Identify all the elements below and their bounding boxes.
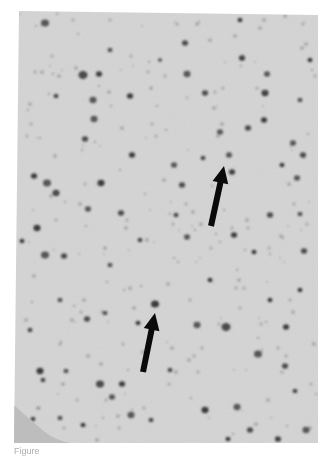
speckle	[70, 318, 74, 322]
speckle	[194, 229, 196, 231]
speckle	[145, 238, 149, 242]
speckle	[244, 249, 246, 251]
speckle	[56, 13, 58, 15]
speckle	[220, 317, 222, 319]
speckle	[237, 278, 241, 282]
cell-nucleus	[58, 416, 63, 421]
speckle	[224, 61, 226, 63]
speckle	[19, 13, 21, 15]
speckle	[212, 281, 214, 283]
cell-nucleus	[96, 380, 104, 387]
speckle	[260, 323, 263, 326]
speckle	[310, 383, 313, 386]
speckle	[141, 25, 143, 27]
speckle	[26, 135, 29, 138]
speckle	[185, 203, 188, 206]
cell-nucleus	[149, 418, 154, 423]
cell-nucleus	[90, 97, 97, 103]
speckle	[101, 311, 104, 314]
speckle	[86, 425, 88, 427]
cell-nucleus	[254, 350, 262, 357]
speckle	[52, 73, 54, 75]
speckle	[269, 253, 271, 255]
speckle	[78, 202, 82, 206]
speckle	[315, 393, 317, 395]
cell-nucleus	[202, 407, 209, 413]
cell-nucleus	[79, 71, 88, 79]
speckle	[277, 347, 280, 350]
speckle	[124, 226, 128, 230]
speckle	[258, 26, 262, 30]
cell-nucleus	[298, 288, 303, 293]
speckle	[241, 54, 245, 58]
speckle	[191, 225, 193, 227]
speckle	[76, 399, 79, 402]
speckle	[165, 129, 167, 131]
speckle	[107, 90, 111, 94]
figure-caption: Figure	[14, 446, 40, 456]
speckle	[119, 169, 121, 171]
cell-nucleus	[264, 71, 270, 76]
speckle	[258, 317, 260, 319]
speckle	[215, 233, 217, 235]
speckle	[220, 122, 224, 126]
cell-nucleus	[20, 239, 25, 244]
cell-nucleus	[268, 298, 273, 303]
cell-nucleus	[308, 58, 313, 63]
cell-nucleus	[298, 98, 303, 103]
cell-nucleus	[136, 321, 141, 326]
speckle	[187, 149, 189, 151]
speckle	[232, 433, 234, 435]
cell-nucleus	[294, 175, 300, 180]
speckle	[170, 346, 174, 350]
cell-nucleus	[293, 389, 298, 394]
speckle	[312, 341, 314, 343]
speckle	[306, 223, 309, 226]
speckle	[98, 85, 100, 87]
cell-nucleus	[128, 412, 135, 418]
speckle	[208, 38, 212, 42]
speckle	[51, 55, 54, 58]
photo	[10, 10, 320, 446]
speckle	[189, 299, 192, 302]
speckle	[57, 74, 61, 78]
cell-nucleus	[82, 136, 88, 141]
speckle	[268, 247, 271, 250]
speckle	[64, 201, 66, 203]
speckle	[261, 349, 263, 351]
cell-nucleus	[298, 212, 303, 217]
speckle	[80, 311, 83, 314]
speckle	[59, 343, 62, 346]
cell-nucleus	[217, 129, 223, 134]
speckle	[27, 109, 29, 111]
speckle	[235, 287, 238, 290]
cell-nucleus	[151, 300, 159, 307]
cell-nucleus	[58, 298, 63, 303]
speckle	[49, 194, 53, 198]
speckle	[126, 219, 129, 222]
speckle	[84, 183, 87, 186]
speckle	[140, 285, 142, 287]
speckle	[291, 310, 295, 314]
speckle	[155, 135, 158, 138]
speckle	[166, 282, 170, 286]
cell-nucleus	[208, 278, 213, 283]
speckle	[24, 318, 28, 322]
speckle	[286, 425, 288, 427]
speckle	[214, 91, 217, 94]
cell-nucleus	[267, 212, 273, 217]
cell-nucleus	[245, 125, 251, 130]
speckle	[191, 210, 195, 214]
speckle	[55, 219, 58, 222]
speckle	[278, 437, 280, 439]
speckle	[270, 417, 272, 419]
speckle	[82, 145, 84, 147]
speckle	[105, 399, 108, 402]
speckle	[210, 247, 213, 250]
cell-nucleus	[282, 363, 288, 368]
speckle	[300, 229, 302, 231]
speckle	[303, 157, 305, 159]
speckle	[36, 406, 40, 410]
cell-nucleus	[252, 250, 257, 255]
speckle	[279, 257, 281, 259]
